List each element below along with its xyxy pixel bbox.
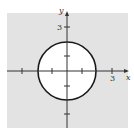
y-tick-label: 3 xyxy=(57,23,62,32)
region-plot: 3 3 y x xyxy=(0,0,134,136)
y-axis-label: y xyxy=(58,6,64,15)
x-axis-label: x xyxy=(126,73,131,82)
x-tick-label: 3 xyxy=(110,74,115,83)
